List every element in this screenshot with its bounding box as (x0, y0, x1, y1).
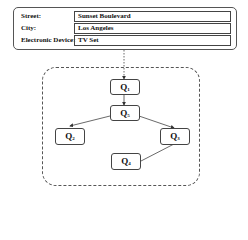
node-q4-sub: 4 (128, 161, 131, 166)
node-q2-sub: 2 (72, 136, 75, 141)
edge-q5-q2 (70, 116, 110, 126)
node-q2[interactable]: Q2 (55, 128, 85, 145)
edge-q3-q4 (141, 144, 174, 161)
node-q1-sub: 1 (127, 87, 130, 92)
node-q1[interactable]: Q1 (110, 79, 140, 95)
node-q3-sub: 3 (177, 136, 180, 141)
node-q3[interactable]: Q3 (160, 128, 190, 145)
node-q5-sub: 5 (127, 113, 130, 118)
node-q5[interactable]: Q5 (110, 105, 140, 121)
edge-q5-q3 (139, 116, 174, 128)
node-q4[interactable]: Q4 (111, 153, 141, 170)
